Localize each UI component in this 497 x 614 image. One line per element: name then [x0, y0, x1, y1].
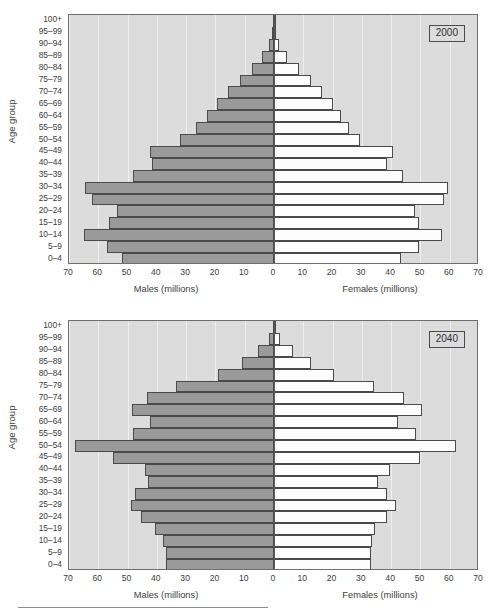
bar-female [274, 122, 349, 134]
bar-female [274, 345, 293, 357]
bar-female [274, 464, 390, 476]
bar-male [262, 51, 274, 63]
bar-male [109, 217, 274, 229]
y-axis-tick-label: 80–84 [39, 63, 62, 72]
bar-male [166, 559, 274, 570]
age-group-row [69, 381, 477, 393]
bar-female [274, 134, 360, 146]
bar-male [141, 511, 274, 523]
population-pyramid-figure: Age group 100+95–9990–9485–8980–8475–797… [0, 0, 497, 614]
bar-male [207, 110, 274, 122]
y-axis-tick-label: 95–99 [39, 27, 62, 36]
bar-female [274, 452, 420, 464]
x-axis-tick-label: 60 [93, 573, 103, 584]
bar-male [107, 241, 274, 253]
age-group-row [69, 110, 477, 122]
bar-male [122, 253, 274, 264]
y-axis-tick-label: 65–69 [39, 99, 62, 108]
y-axis-labels: 100+95–9990–9485–8980–8475–7970–7465–696… [14, 14, 64, 264]
x-axis-tick-label: 30 [356, 267, 366, 278]
y-axis-tick-label: 40–44 [39, 464, 62, 473]
bar-male [228, 86, 274, 98]
age-group-row [69, 15, 477, 27]
y-axis-tick-label: 90–94 [39, 39, 62, 48]
y-axis-tick-label: 25–29 [39, 500, 62, 509]
age-group-row [69, 51, 477, 63]
age-group-row [69, 488, 477, 500]
bar-male [133, 170, 274, 182]
y-axis-tick-label: 35–39 [39, 476, 62, 485]
age-group-row [69, 253, 477, 264]
x-axis-tick-label: 50 [122, 267, 132, 278]
bar-female [274, 63, 299, 75]
x-axis-tick-label: 10 [239, 573, 249, 584]
age-group-row [69, 122, 477, 134]
bar-female [274, 229, 442, 241]
age-group-row [69, 146, 477, 158]
x-axis-tick-label: 70 [473, 573, 483, 584]
bar-male [252, 63, 274, 75]
year-badge: 2000 [429, 25, 465, 42]
bar-female [274, 428, 416, 440]
age-group-row [69, 205, 477, 217]
age-group-row [69, 452, 477, 464]
y-axis-tick-label: 40–44 [39, 158, 62, 167]
y-axis-tick-label: 0–4 [48, 560, 62, 569]
x-axis-tick-label: 60 [444, 267, 454, 278]
age-group-row [69, 416, 477, 428]
bar-female [274, 535, 372, 547]
bar-male [180, 134, 274, 146]
bar-female [274, 440, 456, 452]
x-axis-caption-males: Males (millions) [134, 284, 199, 295]
bar-male [150, 146, 274, 158]
y-axis-tick-label: 70–74 [39, 393, 62, 402]
age-group-row [69, 333, 477, 345]
chart-pyramid-2000: Age group 100+95–9990–9485–8980–8475–797… [0, 6, 497, 306]
plot-area: 2040 [68, 320, 478, 570]
y-axis-tick-label: 85–89 [39, 357, 62, 366]
bar-female [274, 392, 404, 404]
y-axis-tick-label: 90–94 [39, 345, 62, 354]
bar-male [196, 122, 274, 134]
y-axis-tick-label: 10–14 [39, 536, 62, 545]
x-axis-tick-label: 30 [356, 573, 366, 584]
y-axis-tick-label: 25–29 [39, 194, 62, 203]
age-group-row [69, 217, 477, 229]
y-axis-tick-label: 85–89 [39, 51, 62, 60]
age-group-row [69, 440, 477, 452]
y-axis-tick-label: 55–59 [39, 429, 62, 438]
x-axis-tick-label: 50 [415, 267, 425, 278]
y-axis-tick-label: 10–14 [39, 230, 62, 239]
y-axis-tick-label: 100+ [43, 15, 62, 24]
chart-pyramid-2040: Age group 100+95–9990–9485–8980–8475–797… [0, 312, 497, 608]
age-group-row [69, 511, 477, 523]
bar-female [274, 369, 334, 381]
age-group-row [69, 63, 477, 75]
footer-rule [18, 607, 268, 608]
y-axis-tick-label: 80–84 [39, 369, 62, 378]
bar-male [242, 357, 274, 369]
age-group-row [69, 134, 477, 146]
bar-male [133, 428, 274, 440]
x-axis-tick-label: 10 [298, 573, 308, 584]
age-group-row [69, 229, 477, 241]
age-group-row [69, 523, 477, 535]
bar-female [274, 404, 422, 416]
age-group-row [69, 428, 477, 440]
bar-female [274, 182, 448, 194]
age-group-row [69, 345, 477, 357]
bar-male [166, 547, 274, 559]
bar-rows [69, 15, 477, 263]
age-group-row [69, 170, 477, 182]
y-axis-tick-label: 55–59 [39, 123, 62, 132]
bar-female [274, 241, 419, 253]
bar-female [274, 476, 378, 488]
y-axis-tick-label: 5–9 [48, 548, 62, 557]
bar-male [163, 535, 274, 547]
x-axis-tick-label: 10 [298, 267, 308, 278]
center-axis-line [274, 15, 275, 263]
bar-male [155, 523, 274, 535]
bar-male [145, 464, 274, 476]
x-axis-tick-label: 40 [151, 573, 161, 584]
y-axis-tick-label: 20–24 [39, 206, 62, 215]
